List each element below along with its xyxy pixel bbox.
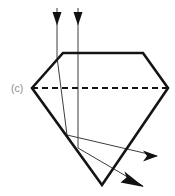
panel-label: (c) bbox=[11, 82, 23, 94]
figure-root: (c) bbox=[0, 0, 175, 196]
diamond-ray-diagram: (c) bbox=[0, 0, 175, 196]
